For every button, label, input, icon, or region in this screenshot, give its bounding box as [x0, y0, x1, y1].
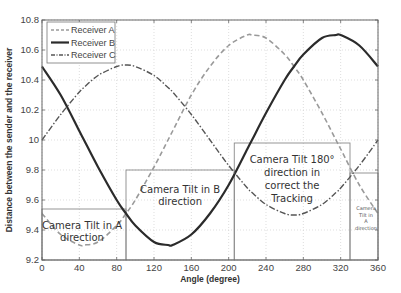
y-tick-label: 9.4 — [26, 224, 39, 235]
annotation-text: Camera Tilt in B — [140, 184, 220, 195]
x-tick-label: 360 — [370, 262, 386, 273]
annotation-text: Tracking — [270, 193, 313, 204]
x-tick-label: 280 — [295, 262, 311, 273]
x-tick-label: 80 — [111, 262, 122, 273]
y-tick-label: 10.2 — [21, 104, 40, 115]
y-tick-label: 10.6 — [21, 44, 40, 55]
annotation-text: A — [364, 218, 368, 224]
x-tick-label: 160 — [183, 262, 199, 273]
y-axis-label: Distance between the sender and the rece… — [4, 47, 14, 232]
annotation-labels: Camera Tilt in AdirectionCamera Tilt in … — [42, 154, 377, 243]
legend-label: Receiver A — [71, 25, 115, 35]
x-tick-label: 120 — [146, 262, 162, 273]
y-tick-label: 9.8 — [26, 164, 39, 175]
y-tick-label: 10.8 — [21, 14, 40, 25]
annotation-text: direction in — [264, 167, 320, 178]
x-tick-label: 200 — [221, 262, 237, 273]
y-tick-label: 10.4 — [21, 74, 40, 85]
x-tick-label: 320 — [333, 262, 349, 273]
y-tick-label: 9.6 — [26, 194, 39, 205]
x-tick-label: 240 — [258, 262, 274, 273]
line-chart: 040801201602002402803203609.29.49.69.810… — [0, 0, 401, 293]
annotation-text: correct the — [265, 180, 320, 191]
x-tick-label: 0 — [39, 262, 44, 273]
annotation-text: direction — [60, 232, 104, 243]
annotation-text: Camera Tilt in A — [42, 220, 122, 231]
y-tick-label: 10 — [28, 134, 39, 145]
y-tick-label: 9.2 — [26, 254, 39, 265]
x-axis-label: Angle (degree) — [180, 274, 240, 284]
annotation-text: Camera — [356, 205, 376, 211]
annotation-text: Camera Tilt 180° — [250, 154, 335, 165]
legend-label: Receiver B — [71, 38, 115, 48]
x-tick-label: 40 — [74, 262, 85, 273]
annotation-text: direction — [355, 225, 377, 231]
annotation-text: direction — [158, 196, 202, 207]
legend-label: Receiver C — [71, 50, 116, 60]
annotation-text: Tilt in — [358, 212, 373, 218]
legend: Receiver AReceiver BReceiver C — [47, 22, 116, 63]
